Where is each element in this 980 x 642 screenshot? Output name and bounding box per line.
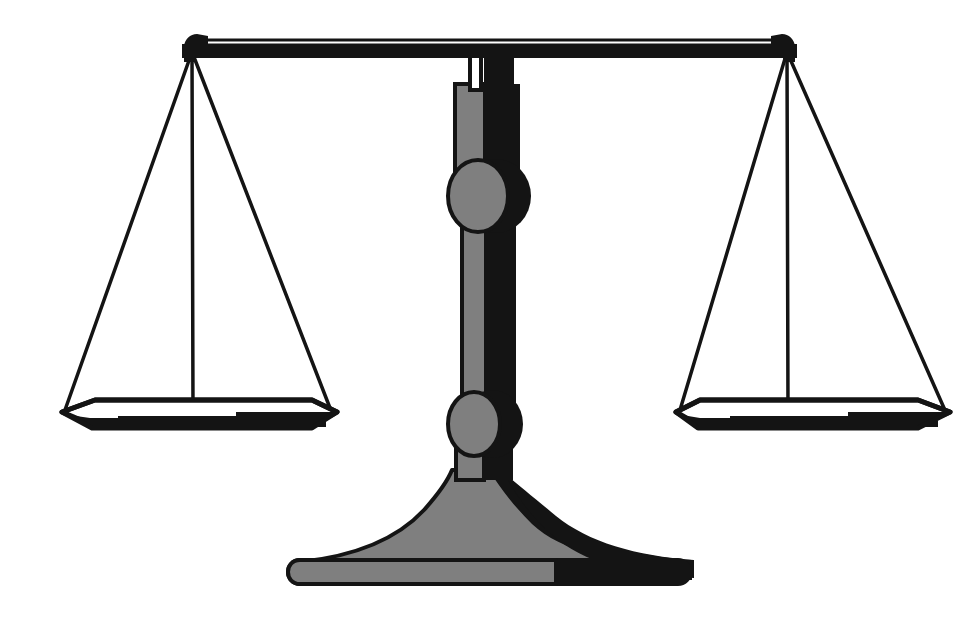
base-foot-body bbox=[288, 560, 556, 584]
cord-right-center bbox=[787, 52, 788, 412]
pan-left-group[interactable] bbox=[62, 400, 337, 428]
pan-right-rim-step-a bbox=[730, 416, 850, 421]
pan-right-group[interactable] bbox=[676, 400, 950, 428]
knob-upper bbox=[448, 160, 508, 232]
knob-lower bbox=[448, 392, 500, 456]
balance-scale-illustration: Balance Scale two-pan balance scale, lev… bbox=[0, 0, 980, 642]
beam-highlight-stripe bbox=[192, 40, 788, 45]
balance-scale-drawing bbox=[0, 0, 980, 642]
pan-left-rim-step-a bbox=[118, 416, 240, 421]
cord-left-center bbox=[192, 52, 193, 412]
